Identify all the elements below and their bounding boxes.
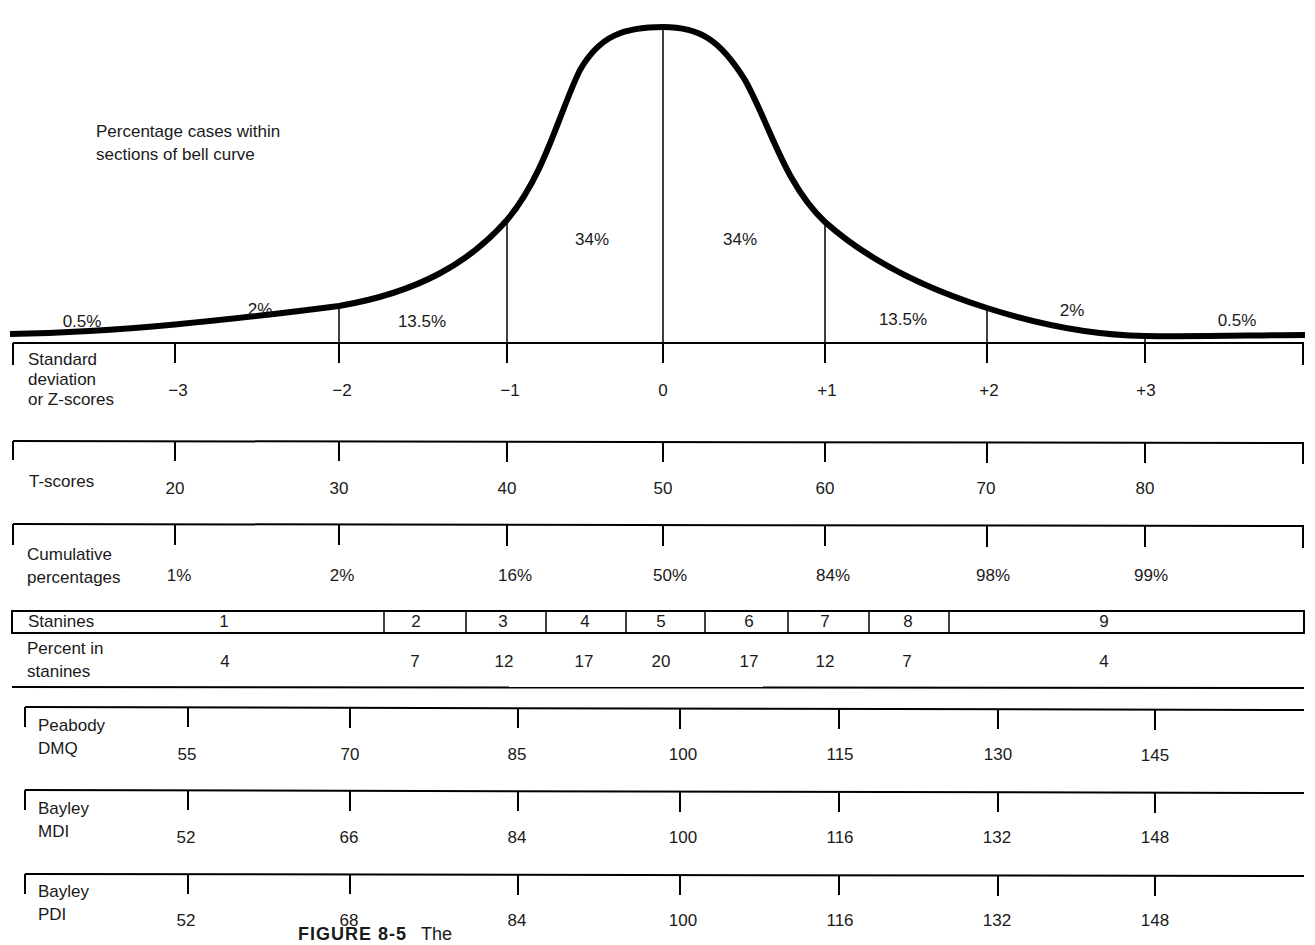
t-value: 70 bbox=[977, 479, 996, 499]
pdi-label-line1: Bayley bbox=[38, 882, 89, 902]
stanine-cell: 6 bbox=[744, 612, 753, 632]
mdi-value: 132 bbox=[983, 828, 1011, 848]
stanine-pct: 12 bbox=[816, 652, 835, 672]
peabody-value: 70 bbox=[341, 745, 360, 765]
peabody-value: 55 bbox=[178, 745, 197, 765]
z-label-line2: deviation bbox=[28, 370, 114, 390]
stanine-cell: 7 bbox=[820, 612, 829, 632]
pdi-value: 84 bbox=[508, 911, 527, 931]
t-value: 50 bbox=[654, 479, 673, 499]
peabody-value: 85 bbox=[508, 745, 527, 765]
peabody-scale-axis bbox=[25, 707, 1304, 730]
stanine-pct: 7 bbox=[902, 652, 911, 672]
mdi-value: 66 bbox=[340, 828, 359, 848]
stanines-label: Stanines bbox=[28, 612, 94, 632]
stanine-pct: 7 bbox=[410, 652, 419, 672]
t-scale-label: T-scores bbox=[29, 472, 94, 492]
pdi-value: 52 bbox=[177, 911, 196, 931]
stanine-cell: 1 bbox=[219, 612, 228, 632]
t-value: 60 bbox=[816, 479, 835, 499]
section-pct-3: 13.5% bbox=[398, 312, 446, 332]
percent-in-stanines-label: Percent in stanines bbox=[27, 639, 104, 682]
curve-title-line1: Percentage cases within bbox=[96, 122, 280, 142]
curve-title-line2: sections of bell curve bbox=[96, 145, 255, 165]
stanine-pct: 4 bbox=[1099, 652, 1108, 672]
pct-label-line2: stanines bbox=[27, 662, 104, 682]
pdi-value: 148 bbox=[1141, 911, 1169, 931]
stanine-pct: 17 bbox=[575, 652, 594, 672]
z-value: +2 bbox=[979, 381, 998, 401]
cumulative-scale-label: Cumulative percentages bbox=[27, 545, 121, 588]
z-value: 0 bbox=[658, 381, 667, 401]
mdi-value: 148 bbox=[1141, 828, 1169, 848]
section-pct-7: 2% bbox=[1060, 301, 1085, 321]
pdi-value: 100 bbox=[669, 911, 697, 931]
z-scale-label: Standard deviation or Z-scores bbox=[28, 350, 114, 410]
pdi-label-line2: PDI bbox=[38, 905, 89, 925]
cum-value: 98% bbox=[976, 566, 1010, 586]
pdi-value: 132 bbox=[983, 911, 1011, 931]
z-scale-axis bbox=[13, 343, 1304, 365]
peabody-value: 115 bbox=[826, 745, 853, 765]
z-value: +1 bbox=[817, 381, 836, 401]
section-pct-1: 0.5% bbox=[63, 312, 102, 332]
section-pct-4: 34% bbox=[575, 230, 609, 250]
stanine-cell: 2 bbox=[411, 612, 420, 632]
peabody-label-line2: DMQ bbox=[38, 739, 105, 759]
pct-label-line1: Percent in bbox=[27, 639, 104, 659]
caption-text: The bbox=[421, 924, 452, 944]
section-pct-8: 0.5% bbox=[1218, 311, 1257, 331]
stanine-cell: 8 bbox=[903, 612, 912, 632]
t-value: 30 bbox=[330, 479, 349, 499]
peabody-value: 130 bbox=[984, 745, 1012, 765]
stanine-cell: 5 bbox=[656, 612, 665, 632]
section-pct-5: 34% bbox=[723, 230, 757, 250]
mdi-value: 100 bbox=[669, 828, 697, 848]
mdi-value: 116 bbox=[826, 828, 853, 848]
figure-number: FIGURE 8-5 bbox=[298, 924, 407, 944]
mdi-label: Bayley MDI bbox=[38, 799, 89, 842]
t-value: 20 bbox=[166, 479, 185, 499]
cum-value: 99% bbox=[1134, 566, 1168, 586]
stanine-pct: 12 bbox=[495, 652, 514, 672]
t-value: 80 bbox=[1136, 479, 1155, 499]
cum-value: 16% bbox=[498, 566, 532, 586]
t-scale-axis bbox=[13, 441, 1304, 464]
cum-value: 1% bbox=[167, 566, 192, 586]
cum-label-line2: percentages bbox=[27, 568, 121, 588]
figure-caption: FIGURE 8-5The bbox=[298, 924, 452, 945]
mdi-value: 84 bbox=[508, 828, 527, 848]
cumulative-scale-axis bbox=[13, 524, 1304, 548]
peabody-value: 100 bbox=[669, 745, 697, 765]
mdi-label-line1: Bayley bbox=[38, 799, 89, 819]
peabody-label: Peabody DMQ bbox=[38, 716, 105, 759]
cum-value: 50% bbox=[653, 566, 687, 586]
stanine-cell: 3 bbox=[498, 612, 507, 632]
bell-curve bbox=[10, 27, 1305, 336]
z-value: −1 bbox=[500, 381, 519, 401]
section-pct-6: 13.5% bbox=[879, 310, 927, 330]
z-value: +3 bbox=[1136, 381, 1155, 401]
cum-value: 84% bbox=[816, 566, 850, 586]
stanine-pct: 20 bbox=[652, 652, 671, 672]
mdi-value: 52 bbox=[177, 828, 196, 848]
z-value: −3 bbox=[168, 381, 187, 401]
pdi-value: 116 bbox=[826, 911, 853, 931]
pdi-scale-axis bbox=[25, 874, 1304, 896]
z-label-line1: Standard bbox=[28, 350, 114, 370]
t-value: 40 bbox=[498, 479, 517, 499]
peabody-value: 145 bbox=[1141, 746, 1169, 766]
stanine-pct: 4 bbox=[220, 652, 229, 672]
z-value: −2 bbox=[332, 381, 351, 401]
cum-label-line1: Cumulative bbox=[27, 545, 121, 565]
normal-curve-figure: Percentage cases within sections of bell… bbox=[0, 0, 1315, 945]
pdi-label: Bayley PDI bbox=[38, 882, 89, 925]
stanine-pct: 17 bbox=[740, 652, 759, 672]
stanine-cell: 9 bbox=[1099, 612, 1108, 632]
stanine-cell: 4 bbox=[580, 612, 589, 632]
cum-value: 2% bbox=[330, 566, 355, 586]
z-label-line3: or Z-scores bbox=[28, 390, 114, 410]
section-pct-2: 2% bbox=[248, 300, 273, 320]
mdi-scale-axis bbox=[25, 790, 1304, 813]
peabody-label-line1: Peabody bbox=[38, 716, 105, 736]
